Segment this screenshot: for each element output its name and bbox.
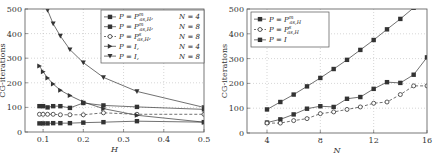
triangle-down-marker [101,75,106,80]
square-marker [45,105,49,109]
y-tick-label: 100 [7,103,22,112]
x-tick-label: 8 [318,136,323,145]
x-tick-label: 4 [264,136,269,145]
y-tick-label: 300 [7,54,22,63]
square-marker [345,58,349,62]
circle-marker [332,110,336,114]
y-axis-label: CG-iterations [220,44,229,98]
square-marker [371,38,375,42]
square-marker [305,84,309,88]
legend-label: P = I, [118,53,139,61]
circle-marker [108,35,112,39]
triangle-right-marker [58,88,63,93]
y-tick-label: 500 [7,5,22,14]
circle-marker [318,112,322,116]
square-marker [41,121,45,125]
square-marker [358,48,362,52]
square-marker [265,107,269,111]
square-marker [108,25,112,29]
y-axis-label: CG-iterations [0,43,7,97]
circle-marker [265,121,269,125]
x-axis-label: N [333,146,342,155]
circle-marker [46,112,50,116]
square-marker [68,121,72,125]
y-tick-label: 100 [229,104,244,113]
x-tick-label: 0.5 [198,135,211,144]
y-tick-label: 400 [7,30,22,39]
triangle-down-marker [81,60,86,65]
square-marker [258,17,262,21]
square-marker [331,67,335,71]
square-marker [101,120,105,124]
figure: 01002003004005000.10.20.30.40.5HCG-itera… [0,0,436,156]
circle-marker [412,84,416,88]
square-marker [331,105,335,109]
square-marker [68,106,72,110]
triangle-down-marker [58,34,63,39]
legend-n-label: N = 4 [178,43,200,51]
square-marker [385,27,389,31]
square-marker [398,17,402,21]
x-tick-label: 0.2 [77,135,90,144]
x-tick-label: 0.3 [117,135,130,144]
left-chart: 01002003004005000.10.20.30.40.5HCG-itera… [0,0,210,154]
square-marker [411,73,415,77]
square-marker [398,81,402,85]
circle-marker [345,107,349,111]
legend-n-label: N = 8 [178,23,200,31]
y-tick-label: 0 [239,129,244,138]
legend-n-label: N = 4 [178,13,200,21]
square-marker [45,121,49,125]
square-marker [58,121,62,125]
triangle-down-marker [51,22,56,27]
circle-marker [305,117,309,121]
circle-marker [278,121,282,125]
series-line [39,103,204,109]
square-marker [318,76,322,80]
square-marker [305,106,309,110]
square-marker [358,95,362,99]
square-marker [51,121,55,125]
square-marker [345,97,349,101]
series-line [267,86,427,123]
circle-marker [58,113,62,117]
legend-n-label: N = 8 [178,53,200,61]
circle-marker [358,105,362,109]
square-marker [135,105,139,109]
square-marker [108,15,112,19]
square-marker [291,92,295,96]
legend-n-label: N = 8 [178,33,200,41]
x-tick-label: 16 [422,136,432,145]
circle-marker [292,119,296,123]
square-marker [135,119,139,123]
y-tick-label: 400 [229,30,244,39]
circle-marker [398,93,402,97]
y-tick-label: 200 [7,79,22,88]
square-marker [385,80,389,84]
y-tick-label: 500 [229,5,244,14]
legend-label: P = I [268,36,287,44]
square-marker [278,100,282,104]
square-marker [51,104,55,108]
square-marker [371,87,375,91]
circle-marker [258,28,262,32]
series-line [267,57,427,122]
x-tick-label: 0.4 [157,135,170,144]
y-tick-label: 0 [17,128,22,137]
right-chart: 0100200300400500481216NCG-iterationsP = … [220,0,432,155]
legend-label: P = I, [118,43,139,51]
circle-marker [41,112,45,116]
x-axis-label: H [110,145,119,154]
circle-marker [372,101,376,105]
circle-marker [81,113,85,117]
square-marker [258,38,262,42]
circle-marker [51,112,55,116]
circle-marker [68,113,72,117]
square-marker [81,120,85,124]
square-marker [291,112,295,116]
square-marker [41,104,45,108]
square-marker [318,104,322,108]
y-tick-label: 200 [229,79,244,88]
y-tick-label: 300 [229,55,244,64]
triangle-right-marker [37,64,42,69]
